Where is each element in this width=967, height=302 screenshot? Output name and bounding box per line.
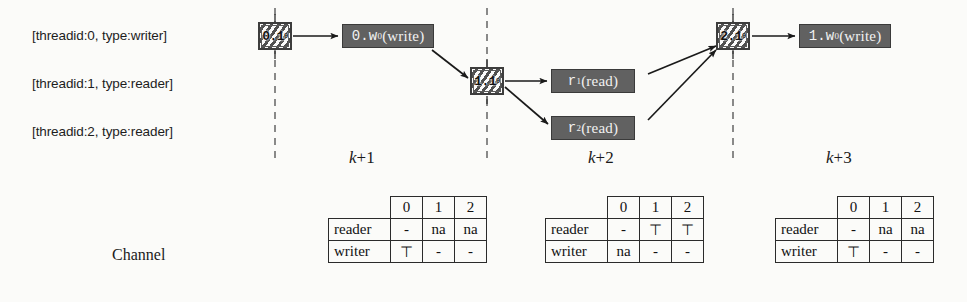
state-node-1[interactable]: 1.10 [470,67,504,95]
row-header-reader: reader [546,219,608,241]
thread-label-2: [threadid:2, type:reader] [32,124,173,139]
table-header-row: 0 1 2 [329,197,487,219]
col-header-1: 1 [640,197,672,219]
row-header-writer: writer [546,241,608,263]
col-header-0: 0 [838,197,870,219]
phase-k2-lhs: k [588,148,596,167]
col-header-1: 1 [870,197,902,219]
cell-writer-2: - [455,241,487,263]
table-corner-cell [546,197,608,219]
state-node-0-text: 0.1 [262,29,284,44]
phase-k2-rhs: 2 [605,148,614,167]
col-header-2: 2 [672,197,704,219]
action-read-2-base: r [568,120,577,136]
action-write-0-base: 0.w [352,28,378,44]
cell-writer-0: ⊤ [838,241,870,263]
thread-label-1: [threadid:1, type:reader] [32,76,173,91]
col-header-1: 1 [423,197,455,219]
cell-reader-1: ⊤ [640,219,672,241]
state-node-2-text: 2.1 [720,29,742,44]
action-read-1-base: r [568,73,577,89]
action-read-1-paren: (read) [581,73,618,90]
channel-table-k3: 0 1 2 reader - na na writer ⊤ - - [775,196,934,263]
phase-k3-op: + [834,148,844,167]
phase-k3-rhs: 3 [843,148,852,167]
table-row: reader - na na [329,219,487,241]
action-read-2-paren: (read) [581,120,618,137]
action-write-1-paren: (write) [839,28,881,45]
table-row: writer na - - [546,241,704,263]
phase-k2-op: + [596,148,606,167]
phase-label-k1: k+1 [349,148,375,168]
col-header-2: 2 [902,197,934,219]
cell-writer-0: na [608,241,640,263]
state-node-0-sup: 0 [284,32,288,40]
state-node-1-text: 1.1 [474,74,496,89]
channel-table-k2: 0 1 2 reader - ⊤ ⊤ writer na - - [545,196,704,263]
state-node-2-sup: 0 [742,32,746,40]
phase-k1-lhs: k [349,148,357,167]
cell-reader-0: - [391,219,423,241]
cell-reader-0: - [838,219,870,241]
col-header-0: 0 [608,197,640,219]
state-node-1-sup: 0 [496,77,500,85]
phase-k3-lhs: k [826,148,834,167]
cell-reader-2: na [902,219,934,241]
col-header-2: 2 [455,197,487,219]
edge-n1-to-read2 [505,87,548,124]
cell-writer-1: - [640,241,672,263]
state-node-2-label: 2.10 [718,24,748,48]
cell-writer-1: - [870,241,902,263]
table-row: writer ⊤ - - [329,241,487,263]
row-header-reader: reader [776,219,838,241]
row-header-writer: writer [776,241,838,263]
table-header-row: 0 1 2 [546,197,704,219]
cell-reader-2: na [455,219,487,241]
action-read-1[interactable]: r1(read) [551,69,635,93]
table-row: reader - na na [776,219,934,241]
phase-k1-rhs: 1 [366,148,375,167]
table-header-row: 0 1 2 [776,197,934,219]
row-header-writer: writer [329,241,391,263]
cell-writer-0: ⊤ [391,241,423,263]
action-write-1-base: 1.w [809,28,835,44]
action-write-0[interactable]: 0.w0(write) [342,24,434,48]
state-node-0-label: 0.10 [260,24,290,48]
table-row: reader - ⊤ ⊤ [546,219,704,241]
cell-writer-2: - [902,241,934,263]
state-node-0[interactable]: 0.10 [258,22,292,50]
cell-writer-1: - [423,241,455,263]
col-header-0: 0 [391,197,423,219]
phase-label-k3: k+3 [826,148,852,168]
action-write-0-paren: (write) [382,28,424,45]
state-node-2[interactable]: 2.10 [716,22,750,50]
channel-table-k1: 0 1 2 reader - na na writer ⊤ - - [328,196,487,263]
phase-k1-op: + [357,148,367,167]
row-header-reader: reader [329,219,391,241]
diagram-canvas: [threadid:0, type:writer] [threadid:1, t… [0,0,967,302]
state-node-1-label: 1.10 [472,69,502,93]
table-corner-cell [329,197,391,219]
cell-reader-2: ⊤ [672,219,704,241]
cell-reader-1: na [423,219,455,241]
channel-caption: Channel [112,246,165,264]
cell-writer-2: - [672,241,704,263]
action-read-2[interactable]: r2(read) [551,116,635,140]
table-row: writer ⊤ - - [776,241,934,263]
table-corner-cell [776,197,838,219]
edge-write0-to-n1 [432,50,468,78]
action-write-1[interactable]: 1.w0(write) [799,24,891,48]
cell-reader-0: - [608,219,640,241]
phase-label-k2: k+2 [588,148,614,168]
thread-label-0: [threadid:0, type:writer] [32,28,167,43]
cell-reader-1: na [870,219,902,241]
